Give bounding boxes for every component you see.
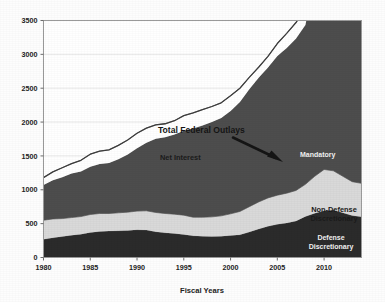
x-tick-label: 1995: [176, 263, 192, 272]
x-tick-label: 1980: [36, 263, 52, 272]
annotation-total-federal-outlays: Total Federal Outlays: [158, 125, 245, 135]
y-tick-label: 2500: [22, 84, 38, 93]
annotation-defense-discretionary-line2: Discretionary: [309, 243, 354, 251]
y-tick-label: 1000: [22, 185, 38, 194]
annotation-net-interest: Net Interest: [160, 153, 201, 162]
chart-figure: 0500100015002000250030003500 19801985199…: [0, 0, 385, 302]
x-axis: 1980198519901995200020052010: [36, 258, 333, 272]
federal-outlays-area-chart: 0500100015002000250030003500 19801985199…: [0, 0, 385, 302]
x-tick-label: 1985: [82, 263, 98, 272]
annotation-non-defense-discretionary-line2: Discretionary: [310, 214, 358, 223]
y-tick-label: 2000: [22, 118, 38, 127]
x-tick-label: 2005: [269, 263, 285, 272]
y-tick-label: 0: [34, 253, 38, 262]
annotation-defense-discretionary-line1: Defense: [317, 234, 344, 241]
y-tick-label: 3000: [22, 50, 38, 59]
annotation-non-defense-discretionary-line1: Non-Defense: [311, 205, 357, 214]
x-tick-label: 1990: [129, 263, 145, 272]
y-tick-label: 3500: [22, 16, 38, 25]
y-tick-label: 500: [26, 219, 38, 228]
x-tick-label: 2010: [316, 263, 332, 272]
x-tick-label: 2000: [223, 263, 239, 272]
y-tick-label: 1500: [22, 152, 38, 161]
x-axis-title: Fiscal Years: [180, 286, 224, 295]
y-axis: 0500100015002000250030003500: [22, 16, 44, 262]
annotation-mandatory: Mandatory: [300, 151, 336, 159]
